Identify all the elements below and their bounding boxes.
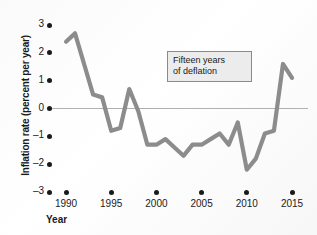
- x-axis-tick-dot: [290, 190, 295, 195]
- y-axis-tick-label: 2: [24, 46, 44, 57]
- deflation-annotation: Fifteen years of deflation: [167, 51, 252, 82]
- x-axis-tick-label: 2010: [230, 198, 264, 209]
- x-axis-tick-dot: [244, 190, 249, 195]
- x-axis-tick-dot: [199, 190, 204, 195]
- x-axis-tick-dot: [64, 190, 69, 195]
- x-axis-tick-dot: [154, 190, 159, 195]
- chart-container: Inflation rate (percent per year) Year F…: [0, 0, 317, 235]
- annotation-line-2: of deflation: [173, 66, 247, 77]
- x-axis-tick-label: 2000: [139, 198, 173, 209]
- y-axis-tick-dot: [47, 134, 52, 139]
- y-axis-tick-dot: [47, 162, 52, 167]
- y-axis-tick-label: 0: [24, 102, 44, 113]
- y-axis-tick-label: 3: [24, 18, 44, 29]
- y-axis-tick-label: –3: [24, 185, 44, 196]
- y-axis-tick-dot: [47, 106, 52, 111]
- x-axis-tick-label: 2015: [275, 198, 309, 209]
- y-axis-tick-label: –1: [24, 129, 44, 140]
- x-axis-tick-dot: [109, 190, 114, 195]
- x-axis-tick-label: 2005: [185, 198, 219, 209]
- x-axis-tick-label: 1995: [94, 198, 128, 209]
- y-axis-tick-dot: [47, 23, 52, 28]
- x-axis-tick-label: 1990: [49, 198, 83, 209]
- y-axis-tick-label: 1: [24, 74, 44, 85]
- annotation-line-1: Fifteen years: [173, 55, 247, 66]
- y-axis-tick-dot: [47, 190, 52, 195]
- y-axis-tick-label: –2: [24, 157, 44, 168]
